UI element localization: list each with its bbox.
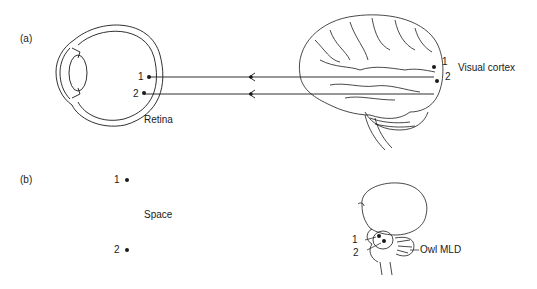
eye-illustration — [56, 25, 163, 126]
cortex-point-1 — [432, 65, 436, 69]
owl-point-1 — [377, 234, 381, 238]
owl-point-1-label: 1 — [352, 235, 358, 245]
owl-point-2 — [382, 239, 386, 243]
space-point-1 — [125, 178, 129, 182]
arrow-dot-1 — [249, 75, 253, 79]
owl-brain-illustration — [358, 183, 427, 275]
cortex-point-1-label: 1 — [442, 57, 448, 67]
space-point-2 — [125, 248, 129, 252]
visual-pathway-lines — [144, 73, 434, 98]
panel-a-label: (a) — [20, 34, 32, 44]
owl-point-2-label: 2 — [353, 248, 359, 258]
cortex-point-2-label: 2 — [445, 72, 451, 82]
retina-label: Retina — [144, 115, 173, 125]
space-point-2-label: 2 — [114, 245, 120, 255]
panel-b-label: (b) — [20, 175, 32, 185]
retina-point-2-label: 2 — [133, 89, 139, 99]
human-brain-illustration — [299, 15, 443, 150]
space-label: Space — [144, 210, 172, 220]
retina-point-1-label: 1 — [138, 72, 144, 82]
visual-cortex-label: Visual cortex — [458, 63, 515, 73]
space-point-1-label: 1 — [114, 175, 120, 185]
arrow-dot-2 — [249, 92, 253, 96]
owl-mld-label: Owl MLD — [420, 245, 461, 255]
cortex-point-2 — [435, 79, 439, 83]
